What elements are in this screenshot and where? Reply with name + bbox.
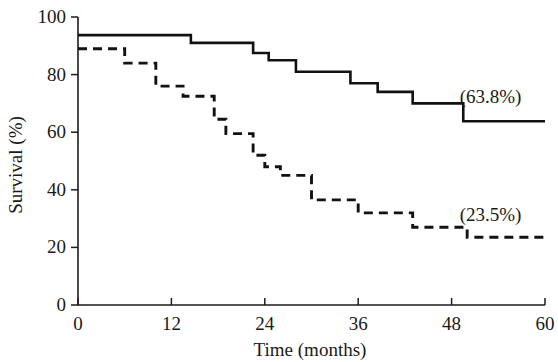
x-axis-ticks [78, 298, 545, 305]
plot-axes [71, 17, 545, 305]
y-axis-ticks [71, 17, 78, 305]
y-tick-label: 60 [47, 121, 66, 142]
survival-curve-solid [78, 35, 545, 121]
x-axis-tick-labels: 01224364860 [73, 313, 554, 334]
y-tick-label: 40 [47, 179, 66, 200]
x-tick-label: 48 [442, 313, 461, 334]
y-tick-label: 0 [57, 294, 67, 315]
y-axis-title: Survival (%) [5, 116, 27, 214]
x-axis-title: Time (months) [254, 339, 367, 361]
chart-canvas: 020406080100 01224364860 Time (months) S… [0, 0, 558, 362]
axis-frame [78, 17, 545, 305]
curve-annotations: (63.8%) (23.5%) [460, 86, 522, 226]
kaplan-meier-chart: 020406080100 01224364860 Time (months) S… [0, 0, 558, 362]
y-tick-label: 100 [38, 6, 67, 27]
annotation-solid-final-survival: (63.8%) [460, 86, 522, 108]
x-tick-label: 60 [536, 313, 555, 334]
y-axis-tick-labels: 020406080100 [38, 6, 67, 315]
x-tick-label: 36 [349, 313, 368, 334]
x-tick-label: 12 [162, 313, 181, 334]
y-tick-label: 80 [47, 64, 66, 85]
x-tick-label: 24 [255, 313, 275, 334]
annotation-dashed-final-survival: (23.5%) [460, 204, 522, 226]
y-tick-label: 20 [47, 236, 66, 257]
x-tick-label: 0 [73, 313, 83, 334]
